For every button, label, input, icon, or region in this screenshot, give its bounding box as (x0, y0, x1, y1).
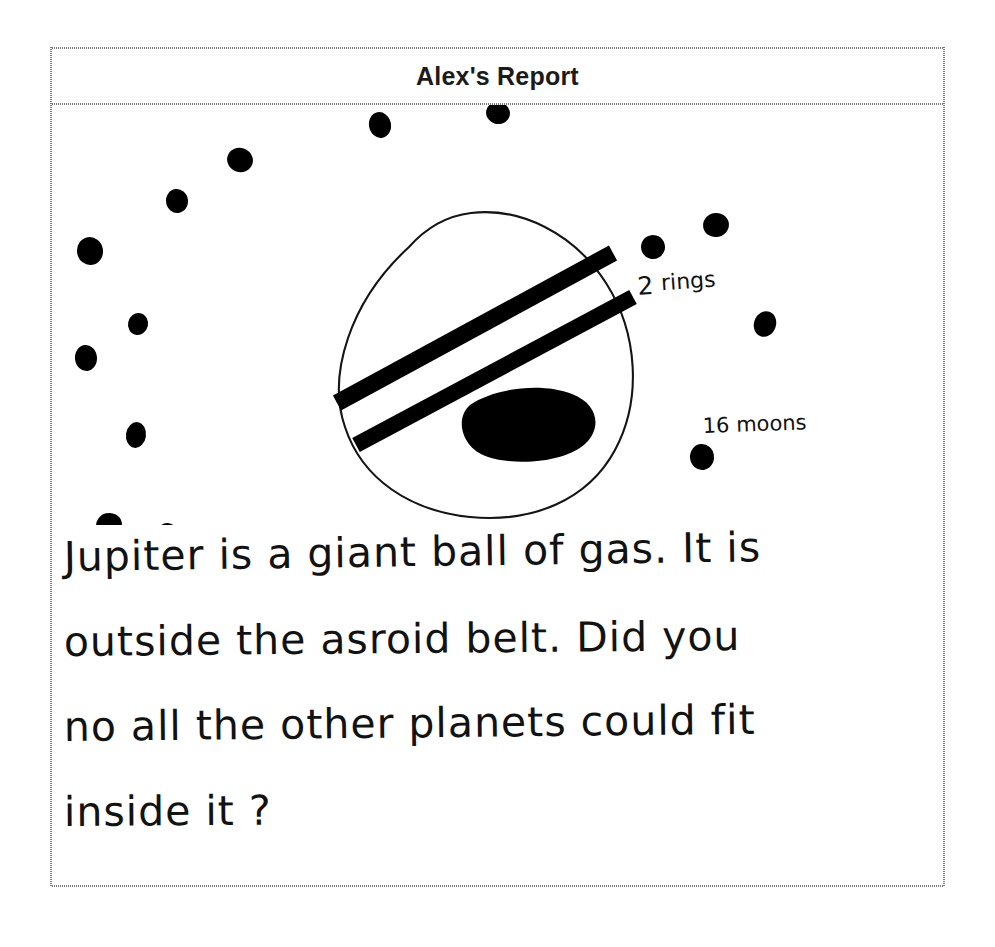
body-line: no all the other planets could fit (64, 696, 756, 751)
moon-dot (126, 311, 150, 337)
rings-annotation: 2 rings (636, 267, 716, 301)
moon-dot (750, 308, 780, 340)
moon-dot (224, 145, 256, 176)
moon-dot (484, 105, 513, 127)
body-line: Jupiter is a giant ball of gas. It is (60, 523, 761, 581)
moon-dots (74, 105, 780, 525)
great-red-spot (462, 388, 596, 462)
worksheet-page: Alex's Report (50, 47, 945, 887)
moon-dot (689, 443, 716, 472)
moon-dot (164, 188, 189, 215)
body-line: inside it ? (64, 787, 272, 836)
moon-dot (638, 232, 668, 262)
moon-dot (367, 110, 394, 140)
handwritten-paragraph: Jupiter is a giant ball of gas. It is ou… (50, 517, 945, 877)
moon-dot (75, 235, 105, 267)
moons-annotation: 16 moons (702, 410, 807, 438)
moon-dot (124, 421, 147, 450)
moon-dot (74, 344, 99, 372)
jupiter-diagram: 2 rings 16 moons (50, 105, 945, 525)
report-body: Jupiter is a giant ball of gas. It is ou… (50, 517, 945, 877)
moon-dot (701, 210, 732, 239)
body-line: outside the asroid belt. Did you (64, 612, 741, 666)
drawing-area: 2 rings 16 moons (50, 105, 945, 525)
page-title: Alex's Report (416, 64, 579, 89)
report-header: Alex's Report (50, 49, 945, 103)
frame-bottom-rule (50, 885, 945, 887)
